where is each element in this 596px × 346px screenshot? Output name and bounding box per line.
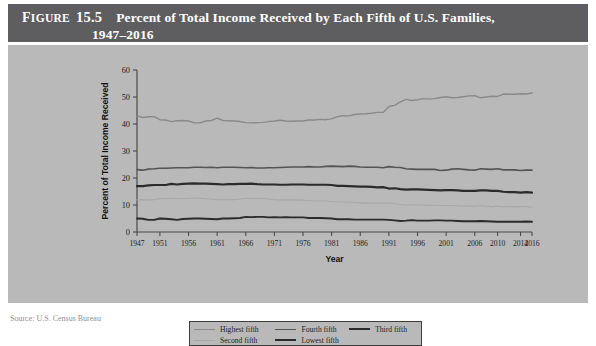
legend-item-second-fifth: Second fifth [194,336,275,345]
y-tick-label: 50 [122,93,130,102]
legend-item-highest-fifth: Highest fifth [194,325,275,334]
series-line-second-fifth [137,198,532,207]
series-line-third-fifth [137,183,532,192]
series-line-fourth-fifth [137,166,532,170]
legend-row-2: Second fifth Lowest fifth [194,335,417,345]
figure-number: 15.5 [76,9,102,26]
x-tick-label: 1947 [129,239,144,248]
figure-title-line1: Percent of Total Income Received by Each… [116,10,494,26]
legend-swatch-third-fifth [349,328,370,330]
legend-item-fourth-fifth: Fourth fifth [275,325,349,334]
legend-swatch-lowest-fifth [275,339,296,341]
x-tick-label: 1976 [295,239,310,248]
figure-header: FIGURE 15.5 Percent of Total Income Rece… [8,4,588,42]
x-tick-label: 2010 [490,239,505,248]
figure-label-initial: F [22,10,31,25]
x-tick-label: 1971 [267,239,282,248]
legend-item-third-fifth: Third fifth [349,325,417,334]
legend-label-third-fifth: Third fifth [375,325,407,334]
legend-swatch-fourth-fifth [275,329,296,330]
line-chart: 0102030405060194719511956196119661971197… [8,45,588,303]
x-axis-title: Year [325,254,344,264]
x-tick-label: 1986 [353,239,368,248]
y-tick-label: 40 [122,120,130,129]
chart-panel: 0102030405060194719511956196119661971197… [8,45,588,303]
x-tick-label: 2001 [439,239,454,248]
chart-legend: Highest fifth Fourth fifth Third fifth S… [189,321,422,346]
figure-label: FIGURE [22,10,70,26]
x-tick-label: 2006 [467,239,482,248]
x-tick-label: 1991 [381,239,396,248]
legend-label-lowest-fifth: Lowest fifth [301,336,338,345]
x-tick-label: 1966 [238,239,253,248]
legend-swatch-second-fifth [194,340,215,341]
x-tick-label: 1981 [324,239,339,248]
series-line-highest-fifth [137,93,532,123]
y-tick-label: 30 [122,147,130,156]
source-note: Source: U.S. Census Bureau [10,314,410,322]
y-tick-label: 20 [122,174,130,183]
x-tick-label: 2016 [524,239,539,248]
figure-label-rest: IGURE [31,12,70,24]
legend-label-highest-fifth: Highest fifth [220,325,259,334]
x-tick-label: 1961 [210,239,225,248]
y-axis-title: Percent of Total Income Received [100,83,110,220]
figure-title-line2: 1947–2016 [92,27,588,43]
series-line-lowest-fifth [137,217,532,222]
legend-swatch-highest-fifth [194,329,215,330]
figure-header-line1: FIGURE 15.5 Percent of Total Income Rece… [22,9,588,26]
x-tick-label: 1951 [152,239,167,248]
x-tick-label: 1956 [181,239,196,248]
legend-label-fourth-fifth: Fourth fifth [301,325,336,334]
y-tick-label: 10 [122,201,130,210]
y-tick-label: 60 [122,66,130,75]
legend-row-1: Highest fifth Fourth fifth Third fifth [194,324,417,334]
y-tick-label: 0 [126,228,130,237]
legend-label-second-fifth: Second fifth [220,336,257,345]
x-tick-label: 1996 [410,239,425,248]
legend-item-lowest-fifth: Lowest fifth [275,336,349,345]
